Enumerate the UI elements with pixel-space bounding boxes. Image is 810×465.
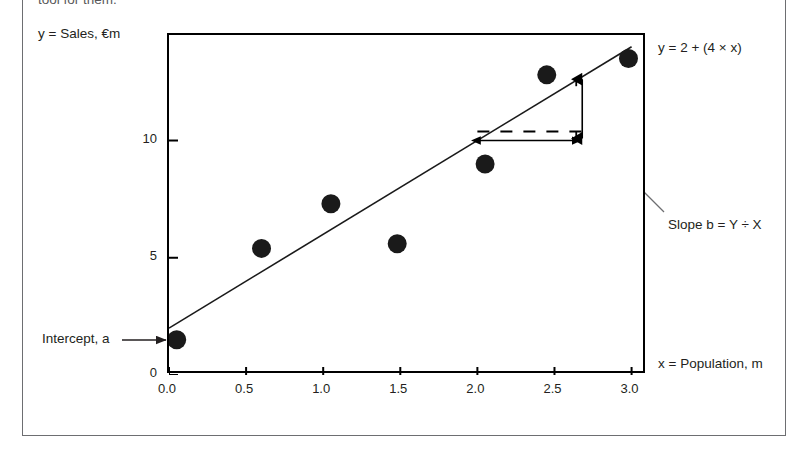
plot-frame: [167, 33, 645, 373]
x-tick-label: 2.5: [534, 381, 570, 396]
x-tick-label: 2.0: [457, 381, 493, 396]
y-tick-label: 0: [127, 365, 157, 380]
regression-line-path: [169, 47, 632, 328]
figure-container: tool for them. y = Sales, €m x = Populat…: [0, 0, 810, 465]
data-point: [537, 65, 556, 84]
data-point: [388, 234, 407, 253]
x-tick-label: 1.0: [303, 381, 339, 396]
data-points: [169, 49, 638, 349]
x-tick-label: 0.0: [149, 381, 185, 396]
x-tick-label: 3.0: [612, 381, 648, 396]
data-point: [169, 330, 186, 349]
plot-canvas: [169, 35, 647, 375]
y-tick-label: 10: [127, 131, 157, 146]
data-point: [321, 194, 340, 213]
regression-line: [169, 47, 632, 328]
y-tick-label: 5: [127, 248, 157, 263]
axis-ticks: [169, 141, 632, 375]
data-point: [619, 49, 638, 68]
data-point: [252, 239, 271, 258]
x-tick-label: 0.5: [226, 381, 262, 396]
data-point: [476, 154, 495, 173]
x-tick-label: 1.5: [380, 381, 416, 396]
